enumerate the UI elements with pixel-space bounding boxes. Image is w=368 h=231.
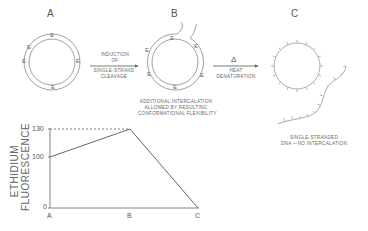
delta-symbol: Δ: [231, 55, 236, 64]
enzyme-mark: E: [200, 72, 204, 78]
arrow-a-to-b-above: INDUCTION OF: [92, 52, 138, 64]
x-tick-a: A: [47, 212, 52, 219]
panel-b-caption: ADDITIONAL INTERCALATION ALLOWED BY RESU…: [138, 99, 214, 117]
y-tick-100: 100: [32, 153, 44, 160]
enzyme-mark: E: [147, 71, 151, 77]
x-tick-c: C: [195, 212, 200, 219]
x-tick-b: B: [127, 212, 132, 219]
fluorescence-line: [50, 129, 198, 208]
enzyme-mark: E: [76, 58, 80, 64]
enzyme-mark: E: [51, 84, 55, 90]
enzyme-mark: E: [145, 47, 149, 53]
panel-c-caption: SINGLE-STRANDED DNA —NO INTERCALATION: [278, 135, 350, 147]
circle-a-dna: [24, 34, 80, 90]
y-tick-130: 130: [32, 125, 44, 132]
arrow-b-to-c-below: HEAT DENATURATION: [212, 68, 260, 80]
circle-b-dna: [148, 22, 204, 90]
chart-axes: [48, 128, 199, 208]
panel-label-b: B: [171, 8, 178, 19]
enzyme-mark: E: [27, 44, 31, 50]
enzyme-mark: E: [50, 32, 54, 38]
panel-label-a: A: [47, 8, 54, 19]
enzyme-mark: E: [170, 35, 174, 41]
enzyme-mark: E: [173, 84, 177, 90]
panel-label-c: C: [291, 8, 298, 19]
linear-single-strand: [278, 66, 346, 124]
y-tick-0: 0: [43, 203, 47, 210]
y-axis-title: ETHIDIUM FLUORESCENCE: [9, 131, 31, 211]
arrow-a-to-b-below: SINGLE-STRAND CLEAVAGE: [88, 68, 140, 80]
circle-c-single-strand: [271, 40, 323, 92]
enzyme-mark: E: [22, 58, 26, 64]
enzyme-mark: E: [194, 43, 198, 49]
